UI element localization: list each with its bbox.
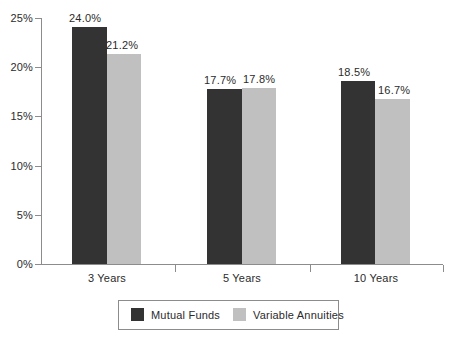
- bars-layer: [0, 0, 456, 264]
- bar-chart: 25% 20% 15% 10% 5% 0%: [0, 0, 456, 345]
- bar-variable-annuities-3-years: [107, 54, 141, 264]
- data-label-variable-annuities-5-years: 17.8%: [243, 73, 275, 85]
- legend: Mutual Funds Variable Annuities: [118, 300, 339, 330]
- x-axis-label-3-years: 3 Years: [72, 272, 142, 284]
- data-label-mutual-funds-5-years: 17.7%: [204, 74, 236, 86]
- bar-mutual-funds-5-years: [207, 89, 242, 264]
- bar-variable-annuities-5-years: [242, 88, 276, 264]
- bar-variable-annuities-10-years: [375, 99, 410, 264]
- data-label-mutual-funds-3-years: 24.0%: [69, 12, 101, 24]
- legend-swatch-icon-mutual-funds: [131, 308, 144, 321]
- data-label-mutual-funds-10-years: 18.5%: [338, 66, 370, 78]
- legend-item-mutual-funds: Mutual Funds: [131, 308, 220, 321]
- x-tick-3: [443, 265, 444, 272]
- legend-item-variable-annuities: Variable Annuities: [233, 308, 344, 321]
- data-label-variable-annuities-3-years: 21.2%: [106, 39, 138, 51]
- x-axis-line: [41, 264, 443, 265]
- legend-swatch-icon-variable-annuities: [233, 308, 246, 321]
- bar-mutual-funds-10-years: [341, 81, 375, 264]
- data-label-variable-annuities-10-years: 16.7%: [378, 84, 410, 96]
- x-axis-label-10-years: 10 Years: [340, 272, 412, 284]
- x-tick-1: [175, 265, 176, 272]
- y-tick-0: [35, 264, 42, 265]
- legend-label-mutual-funds: Mutual Funds: [151, 309, 220, 321]
- bar-mutual-funds-3-years: [72, 27, 107, 264]
- x-tick-2: [310, 265, 311, 272]
- x-axis-label-5-years: 5 Years: [207, 272, 277, 284]
- legend-label-variable-annuities: Variable Annuities: [253, 309, 344, 321]
- plot-area: 25% 20% 15% 10% 5% 0%: [0, 0, 456, 290]
